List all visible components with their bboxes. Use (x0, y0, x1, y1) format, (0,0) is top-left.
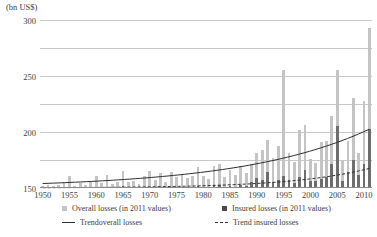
y-axis-unit-label: (bn US$) (6, 2, 37, 12)
legend-item: Trendoverall losses (62, 218, 142, 227)
x-axis-tick-label: 2000 (302, 190, 319, 200)
plot-area: 50100150200250300 (40, 20, 372, 188)
x-axis-tick-label: 1985 (222, 190, 239, 200)
legend-line-insured-trend (215, 222, 228, 223)
y-axis-tick-label: 300 (23, 16, 36, 26)
losses-bar-chart: (bn US$) 50100150200250300 1950195519601… (0, 0, 377, 237)
trend-line-overall-losses (43, 129, 370, 183)
legend-line-overall-trend (62, 222, 75, 223)
x-axis-line (40, 187, 372, 188)
y-axis-tick-label: 250 (23, 72, 36, 82)
x-axis-tick-label: 1990 (248, 190, 265, 200)
chart-legend: Overall losses (in 2011 values)Insured l… (0, 203, 377, 237)
x-axis-tick-label: 1955 (61, 190, 78, 200)
x-axis-tick-label: 1970 (141, 190, 158, 200)
legend-item: Overall losses (in 2011 values) (62, 204, 171, 213)
x-axis-tick-label: 1980 (195, 190, 212, 200)
x-axis-tick-label: 1965 (115, 190, 132, 200)
legend-item: Insured losses (in 2011 values) (222, 204, 331, 213)
x-axis-tick-label: 2010 (355, 190, 372, 200)
legend-swatch-overall-losses (62, 206, 67, 211)
legend-swatch-insured-losses (222, 206, 227, 211)
x-axis-tick-label: 1995 (275, 190, 292, 200)
x-axis-tick-label: 1950 (34, 190, 51, 200)
x-axis-tick-label: 2005 (329, 190, 346, 200)
x-axis-tick-label: 1960 (88, 190, 105, 200)
x-axis-tick-label: 1975 (168, 190, 185, 200)
y-axis-tick-label: 200 (23, 128, 36, 138)
legend-label: Trend insured losses (233, 218, 298, 227)
trend-lines-group (40, 20, 372, 188)
legend-label: Insured losses (in 2011 values) (232, 204, 331, 213)
x-axis-tick-labels: 1950195519601965197019751980198519901995… (40, 190, 372, 204)
legend-label: Overall losses (in 2011 values) (72, 204, 171, 213)
legend-label: Trendoverall losses (80, 218, 142, 227)
legend-item: Trend insured losses (215, 218, 298, 227)
